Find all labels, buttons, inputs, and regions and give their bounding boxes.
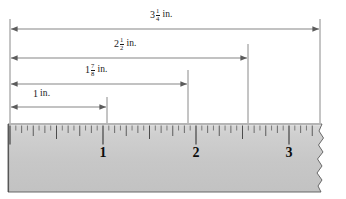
ruler-number-2: 2 [193,146,200,160]
fraction-numerator: 1 [156,8,160,15]
dimension-arrows [11,29,319,107]
dim-label-2-1-2in: 212in. [114,37,137,51]
figure-canvas: 314in. 212in. 178in. 1in. 1 2 3 [0,0,346,199]
unit-label: in. [40,89,50,99]
dim-label-1in: 1in. [33,89,50,99]
fraction-7-8: 78 [91,63,95,77]
ruler-number-3: 3 [286,146,293,160]
fraction-denominator: 2 [120,44,124,52]
ruler-shape [8,124,324,192]
fraction-denominator: 8 [91,70,95,78]
dim-label-1-7-8in: 178in. [85,63,108,77]
fraction-numerator: 7 [91,63,95,70]
mixed-number-2-1-2: 212in. [114,37,137,51]
mixed-number-3-1-4: 314in. [150,8,173,22]
unit-label: in. [163,10,173,20]
fraction-numerator: 1 [120,37,124,44]
whole-part: 2 [114,39,119,49]
fraction-denominator: 4 [156,15,160,23]
ruler-body [8,124,324,192]
unit-label: in. [127,39,137,49]
whole-part: 3 [150,10,155,20]
whole-part: 1 [85,65,90,75]
whole-part: 1 [33,89,38,99]
fraction-1-4: 14 [156,8,160,22]
dim-label-3-1-4in: 314in. [150,8,173,22]
measurement-diagram-svg [0,0,346,199]
fraction-1-2: 12 [120,37,124,51]
mixed-number-1-7-8: 178in. [85,63,108,77]
unit-label: in. [98,65,108,75]
ruler-number-1: 1 [100,146,107,160]
